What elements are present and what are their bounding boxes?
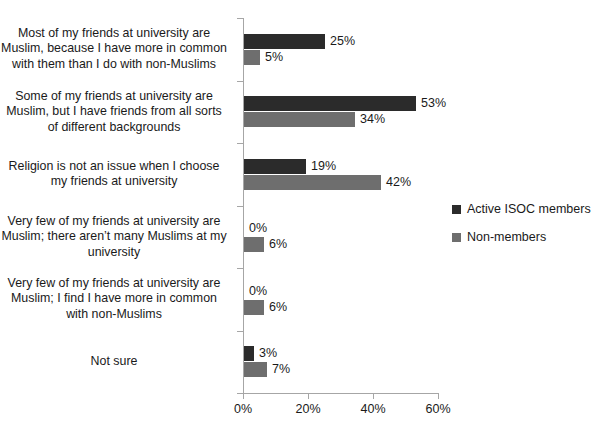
- bar-value-label: 19%: [311, 159, 336, 174]
- bar-active-isoc-members: [244, 34, 325, 49]
- legend-item-active-isoc-members[interactable]: Active ISOC members: [452, 198, 591, 220]
- bar-value-label: 7%: [272, 362, 290, 377]
- bar-non-members: [244, 237, 264, 252]
- bar-value-label: 34%: [360, 112, 385, 127]
- bar-value-label: 25%: [330, 34, 355, 49]
- value-axis-tick: [438, 393, 439, 399]
- category-label: Not sure: [0, 354, 228, 369]
- bar-non-members: [244, 112, 355, 127]
- category-axis-line: [243, 18, 244, 393]
- chart-legend: Active ISOC membersNon-members: [452, 198, 591, 254]
- bar-active-isoc-members: [244, 96, 416, 111]
- bar-value-label: 53%: [421, 96, 446, 111]
- bar-value-label: 0%: [249, 284, 267, 299]
- bar-value-label: 42%: [386, 175, 411, 190]
- value-axis-tick-label: 40%: [343, 402, 403, 416]
- legend-label: Active ISOC members: [467, 202, 591, 216]
- value-axis-tick-label: 0%: [213, 402, 273, 416]
- bar-non-members: [244, 50, 260, 65]
- value-axis-tick-label: 20%: [278, 402, 338, 416]
- value-axis-line: [243, 393, 439, 394]
- value-axis-tick: [308, 393, 309, 399]
- category-axis-tick: [237, 81, 243, 82]
- value-axis-tick: [243, 393, 244, 399]
- legend-swatch-icon: [452, 205, 461, 214]
- value-axis-tick-label: 60%: [408, 402, 468, 416]
- category-axis-tick: [237, 143, 243, 144]
- legend-item-non-members[interactable]: Non-members: [452, 226, 591, 248]
- legend-label: Non-members: [467, 230, 546, 244]
- bar-non-members: [244, 362, 267, 377]
- bar-value-label: 6%: [269, 237, 287, 252]
- bar-value-label: 0%: [249, 221, 267, 236]
- bar-non-members: [244, 175, 381, 190]
- category-label: Very few of my friends at university are…: [0, 214, 228, 260]
- category-label: Very few of my friends at university are…: [0, 276, 228, 322]
- bar-value-label: 6%: [269, 300, 287, 315]
- category-axis-tick: [237, 18, 243, 19]
- category-label: Some of my friends at university are Mus…: [0, 89, 228, 135]
- bar-non-members: [244, 300, 264, 315]
- category-axis-tick: [237, 268, 243, 269]
- bar-value-label: 5%: [265, 50, 283, 65]
- category-axis-tick: [237, 331, 243, 332]
- legend-item-list: Active ISOC membersNon-members: [452, 198, 591, 248]
- bar-value-label: 3%: [259, 346, 277, 361]
- bar-active-isoc-members: [244, 346, 254, 361]
- bar-chart: 0%20%40%60% Most of my friends at univer…: [0, 0, 594, 444]
- value-axis-tick: [373, 393, 374, 399]
- category-label: Most of my friends at university are Mus…: [0, 26, 228, 72]
- category-label: Religion is not an issue when I choose m…: [0, 159, 228, 190]
- category-axis-tick: [237, 206, 243, 207]
- legend-swatch-icon: [452, 233, 461, 242]
- bar-active-isoc-members: [244, 159, 306, 174]
